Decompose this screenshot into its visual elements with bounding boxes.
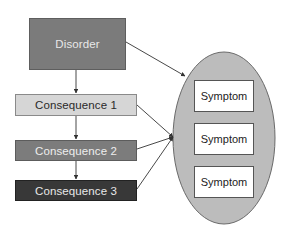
- symptom-label: Symptom: [201, 133, 247, 145]
- edge-consequence-1-to-symptoms: [137, 105, 173, 137]
- edge-consequence-3-to-symptoms: [137, 137, 173, 189]
- edge-disorder-to-symptoms: [126, 42, 185, 76]
- symptom-node-3: Symptom: [194, 166, 254, 198]
- disorder-label: Disorder: [55, 38, 99, 50]
- edge-consequence-2-to-symptoms: [137, 137, 173, 149]
- consequence-3-node: Consequence 3: [15, 180, 137, 201]
- symptom-label: Symptom: [201, 90, 247, 102]
- consequence-2-label: Consequence 2: [35, 145, 117, 157]
- symptom-node-2: Symptom: [194, 123, 254, 155]
- symptom-node-1: Symptom: [194, 80, 254, 112]
- consequence-3-label: Consequence 3: [35, 185, 117, 197]
- consequence-1-label: Consequence 1: [35, 99, 117, 111]
- disorder-node: Disorder: [29, 18, 126, 70]
- symptom-label: Symptom: [201, 176, 247, 188]
- consequence-2-node: Consequence 2: [15, 140, 137, 161]
- consequence-1-node: Consequence 1: [15, 94, 137, 116]
